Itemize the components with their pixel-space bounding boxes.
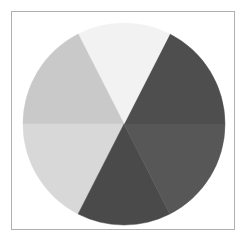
figure-root bbox=[0, 0, 246, 242]
pie-chart bbox=[0, 0, 246, 242]
